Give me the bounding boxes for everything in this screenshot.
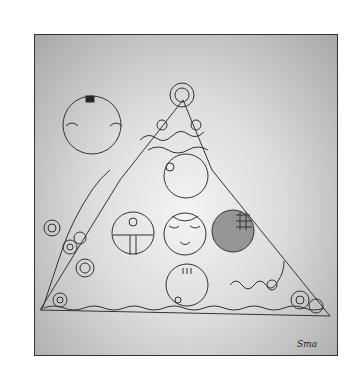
drawing bbox=[0, 0, 360, 380]
face-circle-shaded bbox=[212, 210, 254, 252]
vine-right bbox=[230, 261, 284, 289]
artist-signature: Sma bbox=[297, 339, 317, 349]
ground-line bbox=[44, 306, 324, 310]
face-circle-smile bbox=[164, 213, 206, 255]
summit-ornament bbox=[170, 83, 194, 107]
vine-left bbox=[42, 170, 110, 310]
moon-circle bbox=[63, 96, 121, 154]
face-circle-top bbox=[164, 154, 208, 198]
